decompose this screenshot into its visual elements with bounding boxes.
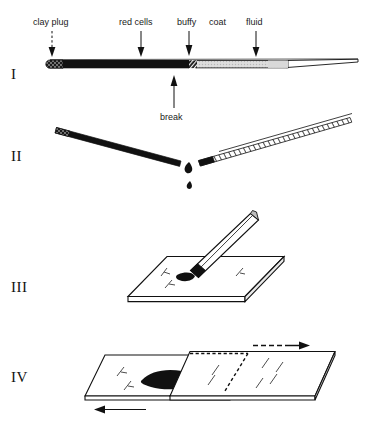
spreader-slide [170,352,335,401]
blood-drops [185,162,193,189]
tube-red-cells-segment [63,60,189,68]
tube-half-left-clay-plug [55,128,70,137]
slide-arrow-left [94,406,146,414]
tube-buffy-coat-segment [188,60,197,68]
spreader-slide-front-edge [170,396,315,400]
tube-half-right [199,114,353,167]
diagram-canvas: I clay plug red cells buffy coat fluid [0,0,373,425]
label-clay-plug: clay plug [33,17,69,27]
spreader-slide-top-face [170,352,335,397]
panel-3: III [11,211,284,302]
blood-drop-1 [185,162,193,173]
panel-2: II [11,114,352,189]
tube-empty-tip [286,59,358,67]
panel-numeral-3: III [11,279,28,295]
slide-3-front-edge [128,297,245,302]
label-arrows [49,31,260,57]
panel-4: IV [11,341,335,413]
spreader-arrow-right [253,341,310,349]
tube-half-right-highlight [219,114,352,152]
tube-half-right-residual-cells [199,157,215,167]
panel-numeral-1: I [11,66,17,82]
label-buffy: buffy [177,17,197,27]
blood-drop-2 [187,181,192,189]
panel-1: I clay plug red cells buffy coat fluid [11,17,358,122]
tube-half-left [55,128,181,167]
tube-half-left-body [55,128,181,167]
label-coat: coat [209,17,227,27]
tube-clay-plug-segment [46,60,63,68]
label-fluid: fluid [246,17,263,27]
capillary-tube-intact [46,59,358,68]
label-break: break [160,112,183,122]
figure-root: I clay plug red cells buffy coat fluid [0,0,373,425]
label-red-cells: red cells [119,17,153,27]
panel-numeral-2: II [11,148,22,164]
panel-numeral-4: IV [11,369,28,385]
break-callout: break [160,75,183,122]
tube-half-right-body [199,118,352,167]
